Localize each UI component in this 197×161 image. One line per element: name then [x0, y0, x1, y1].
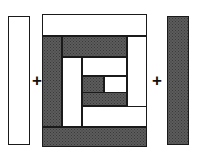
center-square-dark [82, 76, 104, 93]
center-square-light [104, 76, 127, 93]
log-cabin-figure: + + [0, 0, 197, 161]
round3-left-dark [42, 36, 62, 127]
round1-top-light [82, 57, 127, 76]
log-cabin-block [42, 14, 147, 147]
round3-top-light [42, 14, 147, 36]
round2-left-light [62, 57, 82, 127]
round1-bottom-dark [82, 92, 127, 106]
dark-strip-piece [167, 16, 189, 145]
round3-bottom-dark [42, 127, 147, 147]
plus-operator-right-icon: + [152, 72, 162, 89]
round2-top-dark [62, 36, 127, 57]
light-strip-piece [8, 16, 30, 145]
plus-operator-left-icon: + [32, 72, 42, 89]
round2-bottom-light [82, 106, 147, 127]
